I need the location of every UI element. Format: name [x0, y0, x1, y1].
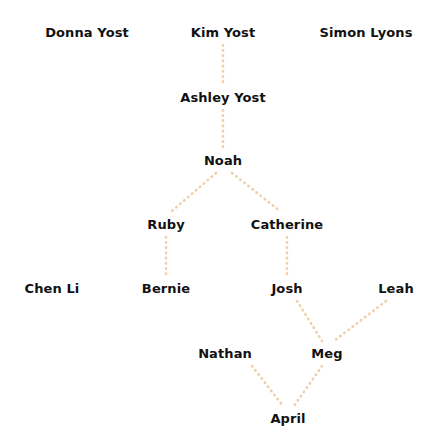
node-layer: Donna YostKim YostSimon LyonsAshley Yost… [0, 0, 439, 448]
person-node-april[interactable]: April [270, 412, 305, 425]
person-node-nathan[interactable]: Nathan [198, 347, 252, 360]
person-node-kim_yost[interactable]: Kim Yost [191, 26, 256, 39]
person-node-noah[interactable]: Noah [204, 154, 242, 167]
person-node-donna_yost[interactable]: Donna Yost [45, 26, 129, 39]
person-node-ashley_yost[interactable]: Ashley Yost [180, 91, 266, 104]
person-node-josh[interactable]: Josh [271, 282, 302, 295]
person-node-ruby[interactable]: Ruby [147, 218, 184, 231]
person-node-meg[interactable]: Meg [311, 347, 342, 360]
person-node-chen_li[interactable]: Chen Li [25, 282, 80, 295]
family-tree-diagram: Donna YostKim YostSimon LyonsAshley Yost… [0, 0, 439, 448]
person-node-leah[interactable]: Leah [378, 282, 414, 295]
person-node-simon_lyons[interactable]: Simon Lyons [320, 26, 413, 39]
person-node-catherine[interactable]: Catherine [251, 218, 323, 231]
person-node-bernie[interactable]: Bernie [142, 282, 190, 295]
